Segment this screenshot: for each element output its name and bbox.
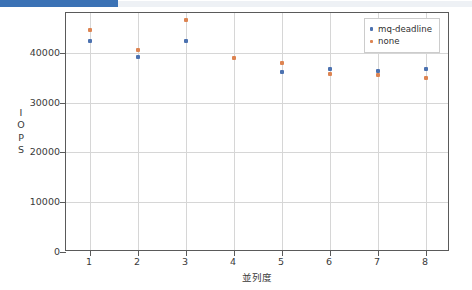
data-point	[328, 72, 332, 76]
y-axis-tick	[60, 53, 66, 54]
x-axis-tick-label: 3	[182, 256, 188, 267]
chart-legend[interactable]: mq-deadline none	[364, 18, 440, 53]
legend-label: none	[378, 35, 399, 47]
legend-marker-icon	[370, 40, 374, 44]
data-point	[184, 39, 188, 43]
legend-marker-icon	[370, 27, 374, 31]
y-axis-tick-labels: 010000200003000040000	[0, 12, 60, 251]
data-point	[424, 67, 428, 71]
y-axis-tick	[60, 252, 66, 253]
grid-line-vertical	[90, 13, 91, 250]
y-axis-tick-label: 40000	[30, 46, 60, 57]
x-axis-tick-labels: 12345678	[65, 254, 449, 270]
grid-line-horizontal	[66, 103, 448, 104]
y-axis-tick-label: 30000	[30, 96, 60, 107]
x-axis-tick-label: 1	[86, 256, 92, 267]
data-point	[184, 18, 188, 22]
chrome-accent-bar	[0, 0, 118, 7]
data-point	[136, 55, 140, 59]
data-point	[280, 70, 284, 74]
grid-line-vertical	[282, 13, 283, 250]
data-point	[424, 76, 428, 80]
data-point	[232, 56, 236, 60]
y-axis-tick-label: 20000	[30, 146, 60, 157]
y-axis-tick	[60, 103, 66, 104]
y-axis-tick-label: 10000	[30, 196, 60, 207]
legend-item-mq-deadline[interactable]: mq-deadline	[370, 23, 432, 35]
data-point	[136, 48, 140, 52]
chart-figure: I O P S 010000200003000040000 mq-deadlin…	[0, 9, 472, 290]
chrome-light-bar	[118, 1, 472, 7]
legend-label: mq-deadline	[378, 23, 432, 35]
data-point	[88, 28, 92, 32]
data-point	[328, 67, 332, 71]
plot-area: mq-deadline none	[65, 12, 449, 251]
grid-line-vertical	[330, 13, 331, 250]
grid-line-horizontal	[66, 53, 448, 54]
window-chrome-strip	[0, 0, 472, 9]
y-axis-tick	[60, 202, 66, 203]
data-point	[280, 61, 284, 65]
x-axis-tick-label: 4	[230, 256, 236, 267]
y-axis-tick-label: 0	[54, 246, 60, 257]
x-axis-tick-label: 5	[278, 256, 284, 267]
x-axis-tick-label: 7	[374, 256, 380, 267]
x-axis-tick-label: 6	[326, 256, 332, 267]
grid-line-horizontal	[66, 202, 448, 203]
x-axis-tick-label: 2	[134, 256, 140, 267]
data-point	[376, 73, 380, 77]
x-axis-tick-label: 8	[422, 256, 428, 267]
x-axis-title: 並列度	[65, 270, 449, 284]
y-axis-tick	[60, 152, 66, 153]
data-point	[88, 39, 92, 43]
grid-line-horizontal	[66, 152, 448, 153]
legend-item-none[interactable]: none	[370, 35, 432, 47]
grid-line-vertical	[234, 13, 235, 250]
grid-line-vertical	[186, 13, 187, 250]
